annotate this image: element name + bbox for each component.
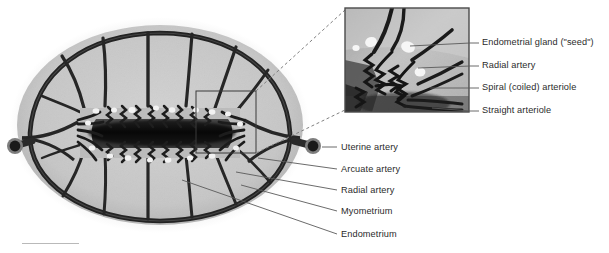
uterus-cross-section — [10, 17, 310, 233]
label-radial-artery-main: Radial artery — [341, 186, 394, 195]
inset-panel — [345, 8, 469, 116]
figure-canvas: Endometrial gland ("seed") Radial artery… — [0, 0, 609, 253]
label-spiral-coiled-arteriole: Spiral (coiled) arteriole — [482, 83, 576, 92]
label-endometrium: Endometrium — [341, 230, 397, 239]
label-myometrium: Myometrium — [341, 207, 393, 216]
label-uterine-artery: Uterine artery — [341, 143, 398, 152]
label-arcuate-artery: Arcuate artery — [341, 165, 400, 174]
label-radial-artery-inset: Radial artery — [482, 61, 535, 70]
label-endometrial-gland: Endometrial gland ("seed") — [482, 38, 594, 47]
scale-rule — [22, 243, 79, 244]
label-straight-arteriole: Straight arteriole — [482, 106, 551, 115]
